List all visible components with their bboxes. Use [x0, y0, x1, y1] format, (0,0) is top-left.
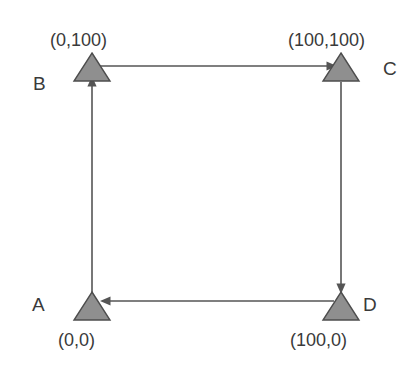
node-label-d: D	[363, 295, 377, 314]
coordinate-label-b: (0,100)	[50, 31, 107, 49]
edge-b-to-c	[99, 61, 337, 70]
edge-a-to-b	[87, 76, 304, 300]
edge-c-to-d	[336, 82, 345, 294]
node-b-triangle[interactable]	[74, 53, 110, 81]
coordinate-label-a: (0,0)	[58, 331, 95, 349]
edge-d-to-a	[100, 296, 334, 305]
node-label-a: A	[32, 295, 45, 314]
node-d-triangle[interactable]	[323, 292, 359, 320]
arrowhead-d-to-a	[100, 296, 111, 305]
diagram-graphic	[0, 0, 420, 386]
coordinate-label-c: (100,100)	[288, 31, 365, 49]
coordinate-label-d: (100,0)	[290, 331, 347, 349]
diagram-canvas: (0,100) (100,100) (0,0) (100,0) B C A D	[0, 0, 420, 386]
node-label-c: C	[383, 59, 397, 78]
node-label-b: B	[33, 74, 46, 93]
node-a-triangle[interactable]	[74, 292, 110, 320]
